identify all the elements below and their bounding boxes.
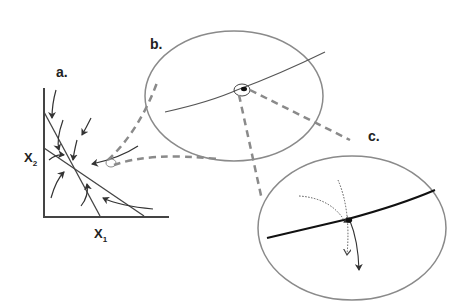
trajectory-dotted-curve: [299, 196, 344, 220]
trajectory-solid-down: [350, 221, 359, 270]
panel-a-axes: [44, 88, 169, 218]
trajectory-arrow: [51, 172, 64, 198]
trajectory-arrow: [52, 90, 56, 118]
y-axis-label-main: X: [24, 150, 33, 165]
panel-c-label: c.: [368, 128, 380, 144]
zoom-ellipse-b: [145, 31, 323, 161]
connector-b-to-c: [239, 90, 350, 200]
connector-a-to-b: [108, 80, 218, 165]
panel-b-label: b.: [150, 36, 162, 52]
trajectory-dotted-down: [338, 180, 348, 255]
equilibrium-point-c: [346, 217, 352, 222]
trajectory-arrow: [82, 118, 91, 135]
panel-c-bold-line: [267, 190, 435, 238]
x-axis-label-main: X: [94, 226, 103, 241]
nullcline-steep: [44, 112, 100, 216]
x-axis-label: X1: [94, 226, 107, 244]
panel-c: [258, 156, 446, 300]
zoom-ellipse-c: [258, 156, 446, 300]
y-axis-label-sub: 2: [33, 159, 37, 168]
panel-a-label: a.: [56, 64, 68, 80]
y-axis-label: X2: [24, 150, 37, 168]
trajectory-arrow: [73, 140, 77, 160]
x-axis-label-sub: 1: [103, 235, 107, 244]
trajectory-arrow: [49, 155, 64, 160]
equilibrium-point-b: [241, 87, 247, 91]
trajectory-arrow: [103, 198, 153, 209]
panel-b: [145, 31, 325, 161]
panel-b-line: [165, 52, 325, 112]
diagram-canvas: [0, 0, 465, 302]
